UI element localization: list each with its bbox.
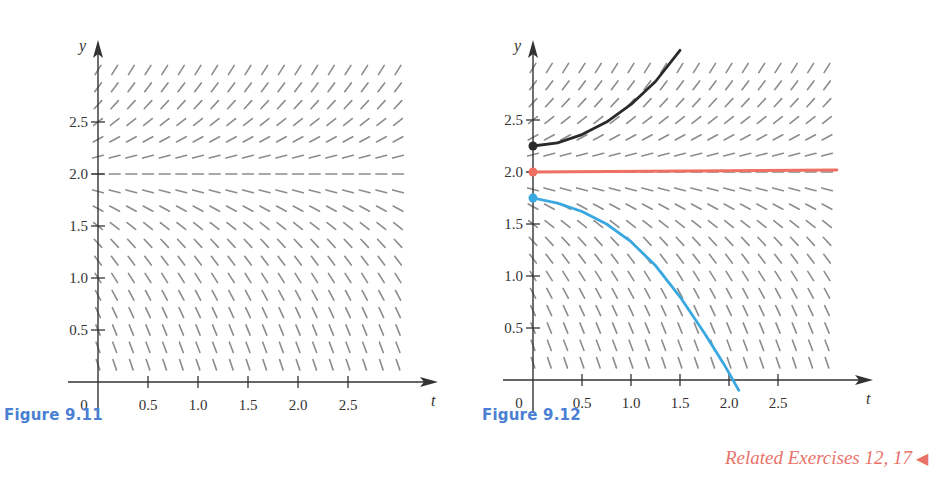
related-exercises-text: Related Exercises 12, 17 [725, 447, 912, 468]
y-tick-label: 2.5 [69, 114, 88, 130]
x-tick-label: 1.0 [189, 397, 208, 413]
figure-9-12-panel: 0.51.01.52.02.50.51.01.52.02.50ty Figure… [460, 0, 936, 477]
x-tick-label: 1.5 [239, 397, 258, 413]
t-axis-label: t [866, 390, 871, 407]
solution-curve-lower [533, 198, 739, 390]
slope-marks [528, 63, 833, 368]
solution-curve-upper [533, 50, 680, 146]
y-tick-label: 0.5 [504, 320, 523, 336]
y-tick-label: 2.0 [69, 166, 88, 182]
y-tick-label: 1.5 [69, 218, 88, 234]
x-tick-label: 2.5 [339, 397, 358, 413]
y-tick-label: 1.5 [504, 216, 523, 232]
figure-caption: Figure 9.12 [482, 406, 581, 424]
y-tick-label: 2.0 [504, 164, 523, 180]
x-tick-label: 1.0 [622, 395, 641, 411]
initial-point-upper [529, 142, 538, 151]
solution-curve-equilibrium [533, 170, 837, 172]
y-tick-label: 1.0 [69, 270, 88, 286]
x-tick-label: 1.5 [671, 395, 690, 411]
axes: 0.51.01.52.02.50.51.01.52.02.50ty [68, 37, 438, 414]
triangle-left-icon: ◀ [916, 450, 928, 467]
figure-9-11-panel: 0.51.01.52.02.50.51.01.52.02.50ty Figure… [0, 0, 460, 477]
y-tick-label: 2.5 [504, 112, 523, 128]
slope-field-plot-9-12: 0.51.01.52.02.50.51.01.52.02.50ty [460, 0, 936, 430]
y-tick-label: 1.0 [504, 268, 523, 284]
slope-field-plot-9-11: 0.51.01.52.02.50.51.01.52.02.50ty [0, 0, 460, 430]
initial-point-equilibrium [529, 168, 538, 177]
y-axis-label: y [512, 37, 522, 55]
y-axis-label: y [77, 37, 87, 55]
initial-point-lower [529, 194, 538, 203]
figure-caption: Figure 9.11 [4, 406, 103, 424]
x-tick-label: 0.5 [139, 397, 158, 413]
x-tick-label: 2.0 [289, 397, 308, 413]
x-tick-label: 2.0 [720, 395, 739, 411]
t-axis-label: t [431, 392, 436, 409]
y-tick-label: 0.5 [69, 322, 88, 338]
related-exercises: Related Exercises 12, 17◀ [725, 447, 928, 469]
axes: 0.51.01.52.02.50.51.01.52.02.50ty [503, 37, 873, 412]
x-tick-label: 2.5 [769, 395, 788, 411]
slope-marks [93, 65, 404, 370]
